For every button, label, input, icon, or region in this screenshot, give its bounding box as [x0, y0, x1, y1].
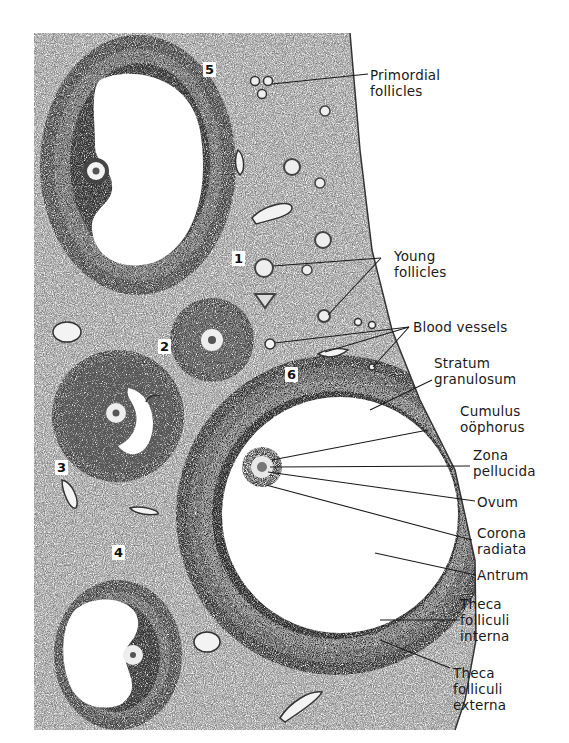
label-corona-radiata: Corona radiata	[477, 525, 526, 557]
ovum	[257, 462, 267, 472]
label-blood-vessels: Blood vessels	[413, 319, 507, 335]
follicle-4	[54, 580, 182, 730]
graafian-follicle	[176, 355, 496, 675]
marker-3: 3	[55, 460, 68, 475]
label-cumulus-oophorus: Cumulus oöphorus	[460, 403, 525, 435]
label-stratum-granulosum: Stratum granulosum	[434, 355, 516, 387]
label-theca-folliculi-interna: Theca folliculi interna	[460, 596, 510, 644]
marker-5: 5	[203, 62, 216, 77]
label-antrum: Antrum	[477, 567, 529, 583]
marker-2: 2	[158, 339, 171, 354]
follicle-2	[170, 298, 254, 382]
follicle-3	[52, 350, 184, 482]
label-theca-folliculi-externa: Theca folliculi externa	[453, 665, 506, 713]
label-ovum: Ovum	[477, 494, 518, 510]
marker-1: 1	[232, 251, 245, 266]
antrum-cavity	[222, 397, 458, 633]
ovary-section-diagram: 5 1 2 6 3 4 Primordial follicles Young f…	[0, 0, 569, 743]
label-young-follicles: Young follicles	[394, 248, 447, 280]
marker-4: 4	[112, 545, 125, 560]
marker-6: 6	[285, 367, 298, 382]
label-primordial-follicles: Primordial follicles	[370, 67, 440, 99]
label-zona-pellucida: Zona pellucida	[473, 447, 536, 479]
